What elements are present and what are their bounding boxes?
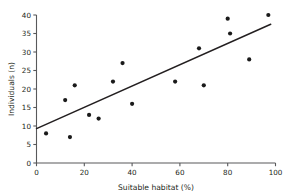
x-axis-title: Suitable habitat (%): [118, 183, 194, 192]
data-point: [44, 131, 48, 135]
data-point: [266, 13, 270, 17]
data-point: [197, 46, 201, 50]
chart-canvas: 0510152025303540 020406080100 Suitable h…: [0, 0, 291, 196]
x-tick-label: 100: [269, 168, 283, 177]
data-point: [68, 135, 72, 139]
y-tick-label: 40: [22, 11, 32, 20]
x-tick-label: 80: [223, 168, 233, 177]
y-tick-label: 5: [26, 140, 31, 149]
y-tick-label: 0: [26, 159, 31, 168]
y-axis-title: Individuals (n): [7, 62, 16, 116]
data-point: [226, 17, 230, 21]
data-point: [73, 83, 77, 87]
data-point: [173, 80, 177, 84]
x-tick-label: 20: [80, 168, 90, 177]
data-point: [202, 83, 206, 87]
data-point: [247, 57, 251, 61]
x-tick-label: 0: [34, 168, 39, 177]
y-tick-label: 15: [22, 103, 31, 112]
y-tick-label: 10: [22, 122, 32, 131]
data-point: [97, 117, 101, 121]
data-point: [228, 31, 232, 35]
y-tick-label: 20: [22, 85, 32, 94]
y-tick-label: 30: [22, 48, 32, 57]
x-tick-label: 40: [128, 168, 138, 177]
data-point: [63, 98, 67, 102]
data-point: [130, 102, 134, 106]
data-point: [120, 61, 124, 65]
chart-background: [0, 0, 291, 196]
y-tick-label: 25: [22, 66, 31, 75]
data-point: [111, 80, 115, 84]
x-tick-label: 60: [175, 168, 185, 177]
scatter-plot-figure: 0510152025303540 020406080100 Suitable h…: [0, 0, 291, 196]
y-tick-label: 35: [22, 29, 31, 38]
data-point: [87, 113, 91, 117]
